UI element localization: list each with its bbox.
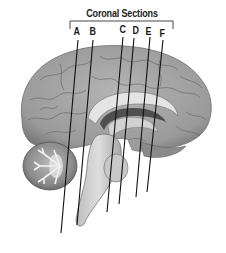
section-label-f: F — [159, 27, 164, 39]
pons — [104, 154, 128, 182]
diagram-title: Coronal Sections — [77, 7, 166, 19]
section-label-e: E — [146, 25, 152, 37]
section-label-a: A — [74, 25, 80, 37]
coronal-sections-diagram: Coronal Sections A B C D E F — [0, 0, 226, 253]
section-label-b: B — [90, 25, 96, 37]
section-label-c: C — [120, 23, 126, 35]
brain-illustration — [0, 0, 226, 253]
section-label-d: D — [133, 24, 139, 36]
